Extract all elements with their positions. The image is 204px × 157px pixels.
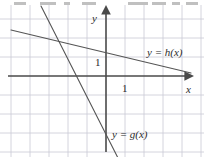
graph-figure: y x 1 1 y = h(x) y = g(x) [0,0,204,157]
curve-g-label: y = g(x) [111,128,148,141]
y-unit-tick-label: 1 [95,56,101,68]
x-axis-label: x [185,83,191,95]
y-axis-label: y [91,12,97,24]
coordinate-plane-svg: y x 1 1 y = h(x) y = g(x) [0,0,204,157]
figure-background [0,0,204,157]
x-unit-tick-label: 1 [122,82,128,94]
curve-h-label: y = h(x) [146,46,183,59]
